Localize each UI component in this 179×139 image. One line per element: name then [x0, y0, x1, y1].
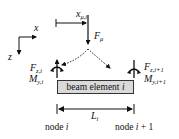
node-right-force-label: Fz,i+1 — [144, 62, 164, 72]
load-position-dimension — [56, 19, 86, 27]
length-label: Li — [91, 111, 98, 121]
load-position-label: xμ,i — [76, 9, 87, 19]
node-right-moment-label: My,i+1 — [144, 74, 166, 84]
beam-label-var: i — [122, 82, 125, 92]
node-right-label: node i + 1 — [115, 123, 153, 133]
node-right-force-moment-icon — [127, 60, 141, 78]
beam-element-box: beam element i — [57, 80, 134, 94]
beam-element-diagram: x z xμ,i Fμ Fz,i My,i Fz,i+1 My,i+1 beam… — [0, 0, 179, 139]
node-left-force-label: Fz,i — [30, 63, 42, 73]
load-label: Fμ — [94, 31, 103, 41]
node-left-label: node i — [45, 123, 68, 133]
z-axis-label: z — [8, 52, 12, 62]
x-axis-label: x — [34, 23, 38, 33]
load-distribution-arrows — [62, 49, 110, 68]
beam-label-prefix: beam element — [66, 82, 121, 92]
node-left-force-moment-icon — [50, 60, 64, 78]
node-left-moment-label: My,i — [29, 74, 43, 84]
coordinate-axes-icon — [19, 37, 36, 54]
